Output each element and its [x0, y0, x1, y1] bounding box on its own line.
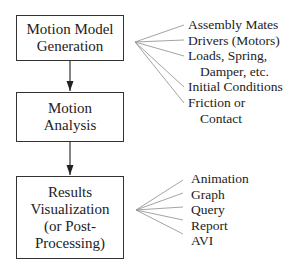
box-label-line: (or Post- [44, 218, 96, 235]
model-inputs-list: Assembly Mates Drivers (Motors) Loads, S… [188, 17, 283, 126]
box-label-line: Analysis [44, 117, 97, 134]
box-label-line: Visualization [30, 201, 109, 218]
box-label-line: Motion [48, 100, 92, 117]
list-item: AVI [191, 233, 249, 249]
box-label-line: Processing) [35, 235, 105, 252]
list-item: Animation [191, 171, 249, 187]
list-item: Graph [191, 187, 249, 203]
list-item: Contact [188, 111, 283, 127]
box-label-line: Results [48, 184, 92, 201]
list-item: Loads, Spring, [188, 48, 283, 64]
list-item: Report [191, 218, 249, 234]
list-item: Assembly Mates [188, 17, 283, 33]
list-item: Drivers (Motors) [188, 33, 283, 49]
list-item: Initial Conditions [188, 79, 283, 95]
box-motion-model-generation: Motion Model Generation [16, 15, 124, 61]
box-results-visualization: Results Visualization (or Post- Processi… [16, 176, 124, 259]
list-item: Query [191, 202, 249, 218]
box-label-line: Generation [37, 38, 104, 55]
box-motion-analysis: Motion Analysis [16, 92, 124, 142]
result-outputs-list: Animation Graph Query Report AVI [191, 171, 249, 249]
list-item: Friction or [188, 95, 283, 111]
box-label-line: Motion Model [26, 21, 113, 38]
fan-result-outputs [136, 180, 183, 234]
list-item: Damper, etc. [188, 64, 283, 80]
fan-model-inputs [135, 25, 184, 103]
